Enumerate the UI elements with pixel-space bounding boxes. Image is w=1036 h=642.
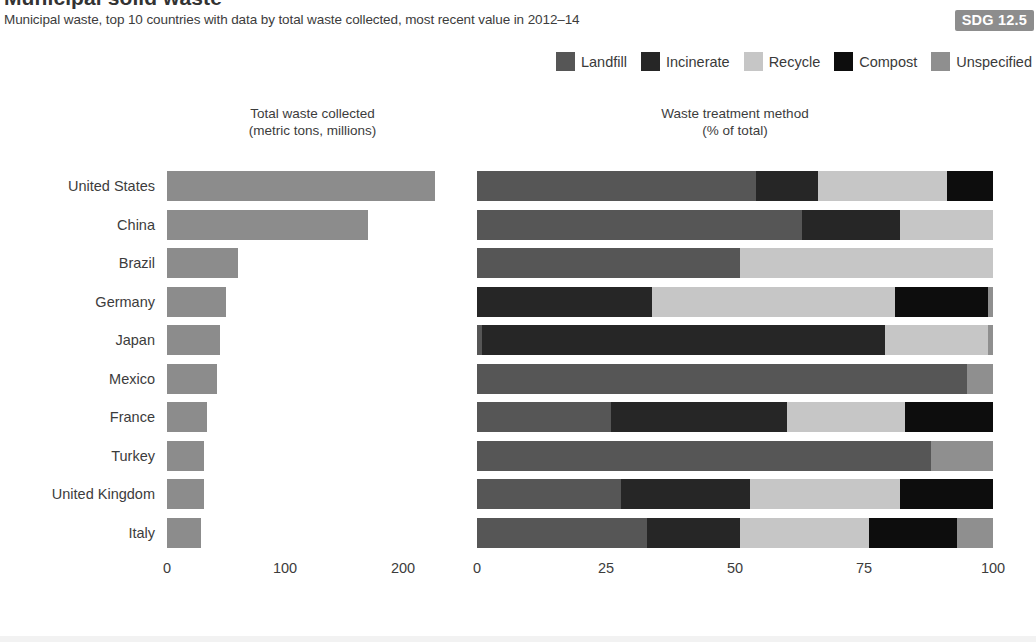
right-panel-subtitle: (% of total) — [477, 122, 993, 139]
stack-segment-recycle[interactable] — [740, 518, 869, 548]
stack-segment-unspecified[interactable] — [988, 325, 993, 355]
table-row — [477, 206, 993, 245]
table-row — [477, 283, 993, 322]
legend-item-compost[interactable]: Compost — [834, 52, 917, 71]
total-waste-bar[interactable] — [167, 402, 207, 432]
left-panel-header: Total waste collected (metric tons, mill… — [165, 105, 460, 139]
category-label: France — [0, 398, 155, 437]
stack-segment-recycle[interactable] — [900, 210, 993, 240]
stack-segment-recycle[interactable] — [787, 402, 906, 432]
stack-segment-compost[interactable] — [947, 171, 993, 201]
table-row — [167, 283, 462, 322]
category-axis-labels: United StatesChinaBrazilGermanyJapanMexi… — [0, 167, 155, 552]
stack-segment-compost[interactable] — [905, 402, 993, 432]
category-label: China — [0, 206, 155, 245]
total-waste-bar[interactable] — [167, 518, 201, 548]
stack-segment-recycle[interactable] — [750, 479, 900, 509]
table-row — [167, 244, 462, 283]
total-waste-bar[interactable] — [167, 287, 226, 317]
stack-segment-landfill[interactable] — [477, 479, 621, 509]
bottom-edge — [0, 636, 1036, 642]
left-value-axis: 0100200 — [167, 560, 462, 586]
total-waste-bar[interactable] — [167, 479, 204, 509]
table-row — [167, 398, 462, 437]
category-label: Mexico — [0, 360, 155, 399]
stack-segment-incinerate[interactable] — [477, 287, 652, 317]
table-row — [167, 167, 462, 206]
legend-label: Landfill — [581, 54, 627, 70]
table-row — [477, 360, 993, 399]
table-row — [167, 321, 462, 360]
chart-figure: Municipal solid waste Municipal waste, t… — [0, 0, 1036, 642]
legend-label: Incinerate — [666, 54, 730, 70]
total-waste-bar[interactable] — [167, 210, 368, 240]
stack-segment-compost[interactable] — [869, 518, 957, 548]
legend-item-unspecified[interactable]: Unspecified — [931, 52, 1032, 71]
table-row — [477, 167, 993, 206]
right-value-axis: 0255075100 — [477, 560, 993, 586]
total-waste-bar[interactable] — [167, 441, 204, 471]
total-waste-bar[interactable] — [167, 325, 220, 355]
legend-label: Unspecified — [956, 54, 1032, 70]
stack-segment-landfill[interactable] — [477, 518, 647, 548]
category-label: Italy — [0, 514, 155, 553]
legend-label: Compost — [859, 54, 917, 70]
stack-segment-landfill[interactable] — [477, 441, 931, 471]
axis-tick-label: 100 — [273, 560, 297, 576]
table-row — [167, 514, 462, 553]
stack-segment-unspecified[interactable] — [931, 441, 993, 471]
legend-swatch-unspecified — [931, 52, 950, 71]
stack-segment-landfill[interactable] — [477, 364, 967, 394]
chart-legend: LandfillIncinerateRecycleCompostUnspecif… — [556, 52, 1032, 71]
stack-segment-incinerate[interactable] — [802, 210, 900, 240]
stack-segment-recycle[interactable] — [740, 248, 993, 278]
stack-segment-landfill[interactable] — [477, 402, 611, 432]
axis-tick-label: 50 — [727, 560, 743, 576]
treatment-method-bars — [477, 167, 993, 552]
legend-label: Recycle — [769, 54, 821, 70]
sdg-badge: SDG 12.5 — [955, 10, 1034, 31]
legend-swatch-compost — [834, 52, 853, 71]
axis-tick-label: 25 — [598, 560, 614, 576]
table-row — [477, 437, 993, 476]
stack-segment-unspecified[interactable] — [957, 518, 993, 548]
stack-segment-compost[interactable] — [900, 479, 993, 509]
stack-segment-landfill[interactable] — [477, 248, 740, 278]
table-row — [167, 360, 462, 399]
axis-tick-label: 0 — [473, 560, 481, 576]
legend-item-incinerate[interactable]: Incinerate — [641, 52, 730, 71]
right-panel-header: Waste treatment method (% of total) — [477, 105, 993, 139]
chart-title: Municipal solid waste — [4, 0, 222, 10]
category-label: Germany — [0, 283, 155, 322]
total-waste-bar[interactable] — [167, 248, 238, 278]
legend-swatch-landfill — [556, 52, 575, 71]
legend-item-recycle[interactable]: Recycle — [744, 52, 821, 71]
stack-segment-incinerate[interactable] — [482, 325, 884, 355]
table-row — [477, 244, 993, 283]
right-panel-title: Waste treatment method — [477, 105, 993, 122]
left-panel-subtitle: (metric tons, millions) — [165, 122, 460, 139]
stack-segment-incinerate[interactable] — [756, 171, 818, 201]
table-row — [477, 514, 993, 553]
stack-segment-recycle[interactable] — [818, 171, 947, 201]
table-row — [167, 475, 462, 514]
legend-swatch-incinerate — [641, 52, 660, 71]
table-row — [477, 321, 993, 360]
stack-segment-landfill[interactable] — [477, 171, 756, 201]
stack-segment-incinerate[interactable] — [611, 402, 786, 432]
stack-segment-recycle[interactable] — [885, 325, 988, 355]
stack-segment-incinerate[interactable] — [621, 479, 750, 509]
stack-segment-compost[interactable] — [895, 287, 988, 317]
category-label: Turkey — [0, 437, 155, 476]
left-panel-title: Total waste collected — [165, 105, 460, 122]
stack-segment-unspecified[interactable] — [988, 287, 993, 317]
stack-segment-incinerate[interactable] — [647, 518, 740, 548]
axis-tick-label: 0 — [163, 560, 171, 576]
stack-segment-unspecified[interactable] — [967, 364, 993, 394]
total-waste-bar[interactable] — [167, 171, 435, 201]
stack-segment-landfill[interactable] — [477, 210, 802, 240]
stack-segment-recycle[interactable] — [652, 287, 895, 317]
axis-tick-label: 75 — [856, 560, 872, 576]
legend-item-landfill[interactable]: Landfill — [556, 52, 627, 71]
total-waste-bar[interactable] — [167, 364, 217, 394]
